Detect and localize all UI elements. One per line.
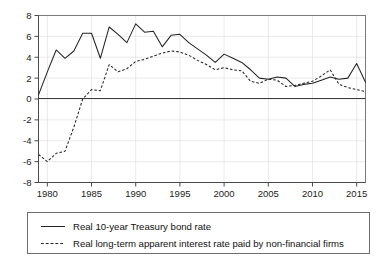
y-tick-label: 0 bbox=[26, 93, 31, 104]
x-tick-label: 2010 bbox=[302, 188, 323, 199]
y-tick-label: -6 bbox=[23, 156, 31, 167]
y-tick-label: 4 bbox=[26, 52, 31, 63]
chart-legend: Real 10-year Treasury bond rate Real lon… bbox=[28, 213, 370, 254]
y-tick-label: 6 bbox=[26, 31, 31, 42]
legend-label-1: Real long-term apparent interest rate pa… bbox=[73, 238, 344, 249]
y-tick-label: -4 bbox=[23, 135, 31, 146]
x-tick-label: 1990 bbox=[125, 188, 146, 199]
x-tick-label: 1995 bbox=[169, 188, 190, 199]
x-tick-label: 2005 bbox=[258, 188, 279, 199]
y-tick-label: -8 bbox=[23, 177, 31, 188]
chart-svg: 86420-2-4-6-8 19801985199019952000200520… bbox=[0, 0, 383, 262]
legend-label-0: Real 10-year Treasury bond rate bbox=[73, 221, 211, 232]
y-tick-label: 2 bbox=[26, 73, 31, 84]
y-tick-group: 86420-2-4-6-8 bbox=[23, 10, 38, 188]
x-tick-label: 2000 bbox=[214, 188, 235, 199]
x-tick-label: 2015 bbox=[346, 188, 367, 199]
y-tick-label: -2 bbox=[23, 114, 31, 125]
y-tick-label: 8 bbox=[26, 10, 31, 21]
x-tick-label: 1980 bbox=[37, 188, 58, 199]
x-tick-label: 1985 bbox=[81, 188, 102, 199]
chart-figure: 86420-2-4-6-8 19801985199019952000200520… bbox=[0, 0, 383, 262]
